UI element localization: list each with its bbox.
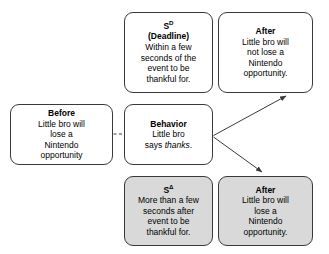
sd-stimulus-box: SD (Deadline) Within a few seconds of th…	[124, 12, 213, 93]
behavior-body-prefix: says	[145, 140, 165, 150]
after-top-box: After Little bro will not lose a Nintend…	[218, 12, 313, 93]
s-delta-stimulus-box: SΔ More than a few seconds after event t…	[124, 176, 213, 246]
sd-box-body: Within a few seconds of the event to be …	[141, 42, 196, 84]
behavior-box-title: Behavior	[150, 119, 186, 130]
behavior-body-suffix: .	[190, 140, 192, 150]
sd-box-title-superscript: D	[169, 19, 173, 26]
behavior-box: Behavior Little bro says thanks.	[124, 104, 213, 165]
after-top-box-body: Little bro will not lose a Nintendo oppo…	[242, 37, 289, 79]
s-delta-box-title-superscript: Δ	[169, 183, 173, 190]
sd-box-subtitle: (Deadline)	[148, 31, 189, 42]
after-bottom-box: After Little bro will lose a Nintendo op…	[218, 176, 313, 246]
before-box-title: Before	[48, 108, 75, 119]
s-delta-box-body: More than a few seconds after event to b…	[138, 195, 199, 237]
after-top-box-title: After	[256, 26, 276, 37]
before-box-body: Little bro will lose a Nintendo opportun…	[38, 119, 85, 161]
connector-behavior-to-after-bottom	[214, 137, 263, 172]
behavior-body-emphasis: thanks	[165, 140, 190, 150]
after-bottom-box-body: Little bro will lose a Nintendo opportun…	[242, 195, 289, 237]
before-box: Before Little bro will lose a Nintendo o…	[10, 104, 113, 165]
behavior-box-body-line2: says thanks.	[145, 140, 192, 151]
diagram-canvas: Before Little bro will lose a Nintendo o…	[0, 0, 329, 254]
connector-behavior-to-after-top	[214, 96, 287, 136]
behavior-box-body-line1: Little bro	[152, 129, 185, 140]
s-delta-box-title: SΔ	[163, 185, 173, 196]
after-bottom-box-title: After	[256, 185, 276, 196]
sd-box-title: SD	[163, 21, 173, 32]
